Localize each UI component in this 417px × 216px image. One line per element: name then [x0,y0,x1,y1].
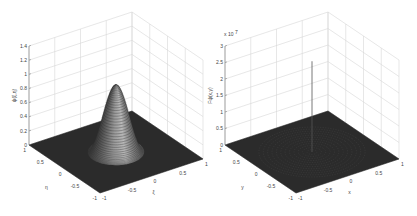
z-tick-label: 1.4 [20,43,27,49]
x-tick-label: 0.5 [179,170,186,176]
z-tick-label: 0.2 [20,128,27,134]
x-tick-label: -1 [102,195,107,201]
y-tick-label: 1 [219,147,222,153]
right-surface-plot: 00.511.522.5310.50-0.5-1-1-0.500.51Fψ(x,… [207,12,404,201]
y-tick-label: 0.5 [37,159,44,165]
y-axis-label: y [241,184,244,190]
z-tick-label: 2 [220,76,223,82]
z-tick-label: 0.4 [20,113,27,119]
z-tick-label: 3 [220,43,223,49]
z-tick-label: 1 [220,109,223,115]
y-tick-label: -1 [93,195,98,201]
y-tick-label: 0 [59,171,62,177]
z-tick-label: 1.2 [20,57,27,63]
x-tick-label: -1 [298,195,303,201]
y-tick-label: -1 [289,195,294,201]
y-axis-label: η [45,184,48,190]
plots-canvas: 00.20.40.60.811.21.410.50-0.5-1-1-0.500.… [0,0,417,216]
y-tick-label: -0.5 [267,183,276,189]
x-tick-label: 1 [205,161,208,167]
x-tick-label: 0 [154,178,157,184]
z-tick-label: 0.8 [20,85,27,91]
x-tick-label: -0.5 [128,187,137,193]
y-tick-label: 0.5 [233,159,240,165]
left-surface-plot: 00.20.40.60.811.21.410.50-0.5-1-1-0.500.… [11,12,208,201]
z-tick-label: 0.5 [216,125,223,131]
z-multiplier-exponent: 7 [235,29,238,35]
z-tick-label: 0.6 [20,99,27,105]
z-tick-label: 1 [24,71,27,77]
y-tick-label: -0.5 [71,183,80,189]
x-tick-label: 1 [401,161,404,167]
z-tick-label: 2.5 [216,59,223,65]
x-axis-label: x [348,189,351,195]
figure: 00.20.40.60.811.21.410.50-0.5-1-1-0.500.… [0,0,417,216]
x-tick-label: 0.5 [375,170,382,176]
z-axis-label: ψ(ξ,η) [11,89,18,103]
y-tick-label: 0 [255,171,258,177]
z-multiplier-label: x 10 [224,31,234,37]
x-axis-label: ξ [152,189,155,196]
x-tick-label: 0 [350,178,353,184]
z-axis-label: Fψ(x,y) [207,87,213,104]
y-tick-label: 1 [23,147,26,153]
x-tick-label: -0.5 [324,187,333,193]
z-tick-label: 1.5 [216,92,223,98]
bump-contour [115,85,116,86]
